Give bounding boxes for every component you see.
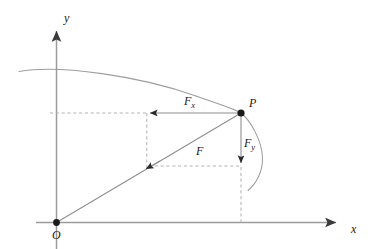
origin-label: O (52, 228, 61, 242)
x-axis-label: x (350, 222, 357, 236)
force-y-label-subscript: y (250, 142, 255, 152)
force-resultant-label: F (195, 144, 204, 158)
y-axis-label: y (63, 11, 70, 25)
point-p-marker (237, 109, 244, 116)
force-resultant-vector (57, 113, 242, 223)
point-p-label: P (248, 96, 257, 110)
force-x-label: Fx (183, 94, 195, 110)
force-y-label: Fy (243, 136, 255, 152)
origin-point (53, 219, 60, 226)
force-x-label-subscript: x (190, 100, 195, 110)
vector-decomposition-figure: y x O P Fx Fy F (0, 0, 375, 249)
